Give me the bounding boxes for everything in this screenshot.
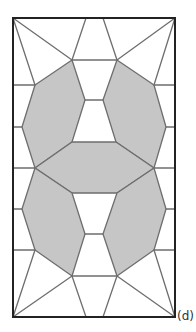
shaded-polygons bbox=[22, 60, 166, 276]
tiling-diagram bbox=[0, 0, 196, 332]
figure-label: (d) bbox=[177, 309, 194, 323]
